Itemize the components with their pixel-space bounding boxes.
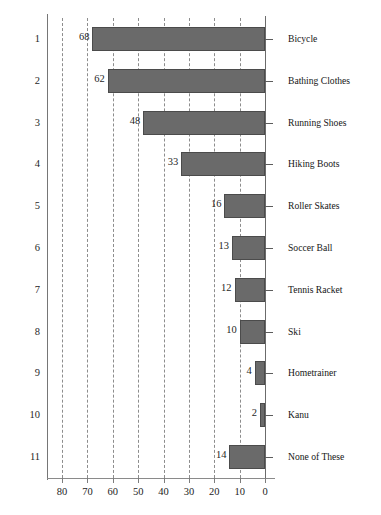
x-tick-10 — [240, 478, 241, 483]
bar-value-label: 62 — [94, 73, 105, 85]
category-label: None of These — [288, 451, 344, 463]
category-tick — [265, 290, 273, 291]
row-index: 6 — [0, 242, 40, 254]
bar-hometrainer — [255, 361, 265, 385]
row-index: 8 — [0, 326, 40, 338]
x-tick-60 — [113, 478, 114, 483]
bar-soccer-ball — [232, 236, 265, 260]
category-tick — [265, 164, 273, 165]
category-label: Kanu — [288, 409, 309, 421]
category-label: Tennis Racket — [288, 284, 342, 296]
row-index: 1 — [0, 33, 40, 45]
category-tick — [265, 248, 273, 249]
category-tick — [265, 81, 273, 82]
bar-value-label: 16 — [211, 198, 222, 210]
category-tick — [265, 415, 273, 416]
bar-ski — [240, 320, 265, 344]
bar-value-label: 48 — [130, 115, 141, 127]
bar-value-label: 4 — [247, 365, 252, 377]
x-tick-50 — [138, 478, 139, 483]
category-tick — [265, 206, 273, 207]
x-tick-30 — [189, 478, 190, 483]
category-label: Soccer Ball — [288, 242, 333, 254]
category-label: Ski — [288, 326, 301, 338]
row-index: 7 — [0, 284, 40, 296]
category-label: Running Shoes — [288, 117, 346, 129]
row-index: 5 — [0, 200, 40, 212]
x-tick-70 — [87, 478, 88, 483]
bar-value-label: 14 — [216, 449, 227, 461]
x-tick-20 — [214, 478, 215, 483]
bar-bathing-clothes — [108, 69, 265, 93]
chart-row: 2 — [0, 394, 381, 436]
category-label: Roller Skates — [288, 200, 339, 212]
x-tick-40 — [164, 478, 165, 483]
bar-bicycle — [92, 27, 265, 51]
bar-value-label: 33 — [168, 156, 179, 168]
x-tick-label: 0 — [250, 485, 280, 498]
category-label: Bathing Clothes — [288, 75, 350, 87]
category-tick — [265, 39, 273, 40]
row-index: 2 — [0, 75, 40, 87]
row-index: 10 — [0, 409, 40, 421]
category-tick — [265, 373, 273, 374]
category-label: Bicycle — [288, 33, 317, 45]
bar-roller-skates — [224, 194, 265, 218]
horizontal-bar-chart: 68624833161312104214 80706050403020100 B… — [0, 0, 381, 515]
x-tick-0 — [265, 478, 266, 483]
bar-value-label: 2 — [252, 407, 257, 419]
x-tick-80 — [62, 478, 63, 483]
bar-tennis-racket — [235, 278, 265, 302]
bar-hiking-boots — [181, 152, 265, 176]
bar-value-label: 68 — [79, 31, 90, 43]
category-label: Hiking Boots — [288, 158, 339, 170]
category-tick — [265, 332, 273, 333]
chart-row: 10 — [0, 311, 381, 353]
row-index: 3 — [0, 117, 40, 129]
bar-value-label: 10 — [226, 324, 237, 336]
category-tick — [265, 123, 273, 124]
row-index: 11 — [0, 451, 40, 463]
category-label: Hometrainer — [288, 367, 336, 379]
row-index: 9 — [0, 367, 40, 379]
bar-value-label: 12 — [221, 282, 232, 294]
category-tick — [265, 457, 273, 458]
row-index: 4 — [0, 158, 40, 170]
bar-value-label: 13 — [219, 240, 230, 252]
bar-none-of-these — [229, 445, 265, 469]
bar-running-shoes — [143, 111, 265, 135]
value-axis-line — [47, 478, 275, 479]
chart-row: 68 — [0, 18, 381, 60]
